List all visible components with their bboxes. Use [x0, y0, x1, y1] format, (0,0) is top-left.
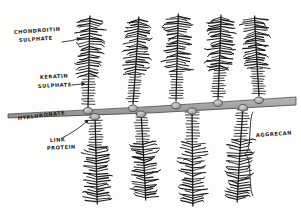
link-protein-knob [188, 108, 197, 114]
chondroitin-sulphate-branch [84, 150, 87, 152]
chondroitin-sulphate-chain [137, 49, 147, 50]
chondroitin-sulphate-chain [97, 195, 108, 197]
chondroitin-sulphate-chain [97, 198, 109, 199]
label-hyaluronate: HYALURONATE [17, 109, 65, 121]
chondroitin-sulphate-chain [178, 26, 190, 28]
chondroitin-sulphate-branch [161, 61, 164, 62]
chondroitin-sulphate-chain [210, 29, 221, 30]
chondroitin-sulphate-chain [257, 64, 267, 65]
chondroitin-sulphate-chain [137, 41, 145, 43]
chondroitin-sulphate-chain [133, 144, 142, 145]
chondroitin-sulphate-chain [238, 190, 248, 191]
chondroitin-sulphate-chain [89, 63, 99, 64]
chondroitin-sulphate-chain [145, 177, 153, 178]
chondroitin-sulphate-chain [177, 64, 189, 66]
chondroitin-sulphate-branch [266, 55, 269, 57]
chondroitin-sulphate-branch [179, 170, 182, 171]
chondroitin-sulphate-chain [90, 26, 98, 28]
chondroitin-sulphate-chain [229, 169, 239, 170]
chondroitin-sulphate-chain [145, 193, 155, 195]
chondroitin-sulphate-chain [97, 174, 108, 175]
chondroitin-sulphate-chain [90, 39, 102, 40]
chondroitin-sulphate-chain [138, 26, 148, 27]
chondroitin-sulphate-chain [89, 52, 101, 53]
chondroitin-sulphate-chain [182, 145, 192, 148]
chondroitin-sulphate-branch [126, 34, 128, 36]
label-link-protein-line2: PROTEIN [47, 143, 76, 151]
chondroitin-sulphate-chain [89, 44, 101, 45]
chondroitin-sulphate-chain [181, 169, 192, 171]
chondroitin-sulphate-chain [193, 183, 201, 185]
chondroitin-sulphate-chain [178, 23, 191, 25]
chondroitin-sulphate-chain [127, 69, 135, 71]
chondroitin-sulphate-branch [148, 26, 151, 28]
chondroitin-sulphate-branch [239, 24, 242, 25]
label-chondroitin-sulphate-line1: CHONDROITIN [14, 26, 61, 35]
link-protein-knob [239, 105, 248, 111]
chondroitin-sulphate-chain [128, 26, 139, 28]
chondroitin-sulphate-chain [164, 48, 177, 51]
chondroitin-sulphate-chain [255, 29, 264, 30]
chondroitin-sulphate-chain [138, 24, 148, 26]
chondroitin-sulphate-chain [87, 151, 96, 153]
chondroitin-sulphate-chain [229, 161, 239, 162]
chondroitin-sulphate-chain [143, 150, 152, 152]
chondroitin-sulphate-chain [97, 175, 110, 177]
chondroitin-sulphate-branch [244, 55, 246, 57]
chondroitin-sulphate-chain [178, 46, 186, 48]
chondroitin-sulphate-chain [213, 41, 220, 43]
chondroitin-sulphate-chain [89, 170, 96, 172]
chondroitin-sulphate-chain [136, 56, 149, 58]
chondroitin-sulphate-branch [83, 197, 86, 198]
chondroitin-sulphate-branch [231, 24, 233, 25]
chondroitin-sulphate-branch [245, 57, 248, 58]
chondroitin-sulphate-chain [136, 169, 144, 170]
chondroitin-sulphate-chain [257, 59, 264, 60]
chondroitin-sulphate-chain [230, 190, 238, 192]
chondroitin-sulphate-chain [143, 148, 156, 149]
chondroitin-sulphate-chain [82, 26, 90, 27]
aggrecan-group-lower [81, 107, 256, 206]
chondroitin-sulphate-chain [131, 24, 139, 25]
chondroitin-sulphate-chain [238, 185, 251, 187]
chondroitin-sulphate-branch [200, 157, 201, 158]
chondroitin-sulphate-chain [221, 29, 228, 31]
proteoglycan-aggregate-diagram: CHONDROITIN SULPHATE KERATIN SULPHATE HY… [0, 0, 301, 214]
chondroitin-sulphate-branch [185, 20, 187, 21]
chondroitin-sulphate-chain [177, 61, 184, 62]
chondroitin-sulphate-branch [157, 170, 160, 172]
chondroitin-sulphate-chain [244, 36, 255, 39]
chondroitin-sulphate-chain [97, 187, 110, 190]
chondroitin-sulphate-chain [86, 158, 96, 159]
chondroitin-sulphate-chain [211, 63, 219, 65]
chondroitin-sulphate-branch [229, 183, 230, 185]
chondroitin-sulphate-chain [89, 68, 98, 70]
chondroitin-sulphate-chain [185, 151, 192, 153]
chondroitin-sulphate-chain [77, 60, 89, 63]
chondroitin-sulphate-chain [89, 57, 98, 58]
chondroitin-sulphate-chain [85, 200, 97, 201]
link-protein-arrow-icon [62, 122, 86, 138]
chondroitin-sulphate-chain [238, 187, 251, 189]
chondroitin-sulphate-chain [138, 39, 147, 40]
chondroitin-sulphate-branch [225, 171, 227, 172]
chondroitin-sulphate-branch [166, 57, 168, 58]
chondroitin-sulphate-branch [250, 161, 252, 162]
chondroitin-sulphate-chain [227, 194, 237, 197]
chondroitin-sulphate-chain [89, 54, 100, 57]
chondroitin-sulphate-branch [79, 46, 80, 47]
chondroitin-sulphate-chain [133, 184, 145, 186]
label-keratan-sulphate-line1: KERATIN [40, 73, 69, 80]
chondroitin-sulphate-chain [193, 196, 202, 198]
chondroitin-sulphate-branch [179, 193, 180, 194]
chondroitin-sulphate-chain [165, 26, 178, 28]
chondroitin-sulphate-chain [164, 58, 177, 60]
chondroitin-sulphate-chain [132, 182, 145, 184]
chondroitin-sulphate-chain [165, 23, 178, 24]
chondroitin-sulphate-chain [168, 56, 178, 57]
chondroitin-sulphate-chain [221, 31, 234, 33]
aggrecan-monomer [81, 115, 112, 204]
chondroitin-sulphate-chain [146, 197, 159, 198]
chondroitin-sulphate-chain [214, 17, 221, 19]
label-chondroitin-sulphate-line2: SULPHATE [19, 35, 53, 43]
